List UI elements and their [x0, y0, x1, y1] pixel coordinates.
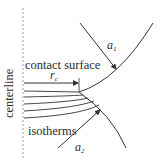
isotherms-label: isotherms [28, 125, 77, 138]
isotherm-1 [24, 91, 79, 92]
lower-surface-curve [79, 92, 126, 148]
isotherm-2 [24, 95, 83, 97]
centerline-label: centerline [3, 69, 16, 118]
isotherms [24, 91, 99, 118]
contact-diagram: contact surface isotherms centerline a1 … [0, 0, 162, 163]
isotherm-3 [24, 98, 88, 104]
isotherm-5 [24, 105, 99, 118]
contact-surface-label: contact surface [25, 59, 100, 72]
a1-label: a1 [107, 39, 117, 53]
isotherm-4 [24, 101, 94, 111]
diagram-graphics [0, 0, 162, 163]
a2-label: a2 [75, 141, 85, 155]
rc-label: rc [50, 69, 58, 83]
